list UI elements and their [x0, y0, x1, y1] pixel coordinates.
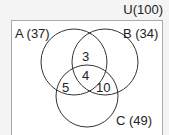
- set-a-label: A (37): [15, 26, 50, 41]
- set-b-label: B (34): [123, 26, 158, 41]
- region-a-b: 3: [82, 49, 89, 64]
- venn-diagram: A (37) B (34) C (49) 3 4 5 10: [0, 0, 169, 135]
- region-b-c: 10: [96, 80, 110, 95]
- set-c-label: C (49): [116, 113, 152, 128]
- region-a-c: 5: [62, 80, 69, 95]
- region-a-b-c: 4: [82, 68, 89, 83]
